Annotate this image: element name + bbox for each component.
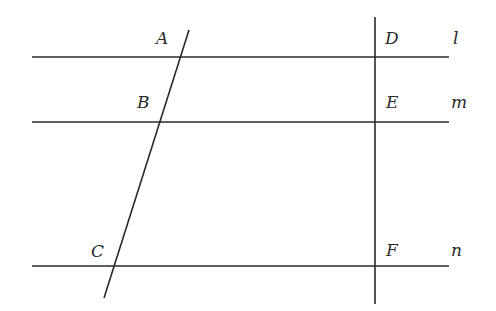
point-label-b: B xyxy=(137,94,150,111)
point-label-a: A xyxy=(156,30,168,47)
diagram-canvas xyxy=(0,0,496,311)
line-label-l: l xyxy=(453,30,458,47)
point-label-d: D xyxy=(385,30,399,47)
point-label-f: F xyxy=(386,242,398,259)
line-label-n: n xyxy=(451,242,462,259)
point-label-e: E xyxy=(386,94,398,111)
transversal-ac xyxy=(104,30,189,298)
line-label-m: m xyxy=(451,94,467,111)
point-label-c: C xyxy=(91,243,104,260)
